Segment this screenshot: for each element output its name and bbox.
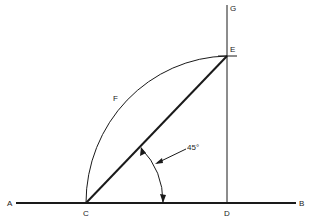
label-d: D [224, 209, 230, 218]
label-a: A [7, 199, 13, 208]
geometry-diagram: A B C D E F G 45° [0, 0, 309, 222]
arrowhead-top [140, 147, 146, 156]
angle-label: 45° [187, 143, 199, 152]
label-e: E [230, 45, 235, 54]
label-c: C [83, 209, 89, 218]
arrowhead-bottom [160, 194, 166, 203]
label-b: B [299, 199, 304, 208]
label-f: F [113, 94, 118, 103]
label-g: G [230, 4, 236, 13]
line-ce [86, 56, 227, 203]
leader-arrowhead [155, 158, 163, 164]
angle-arc [141, 148, 163, 203]
